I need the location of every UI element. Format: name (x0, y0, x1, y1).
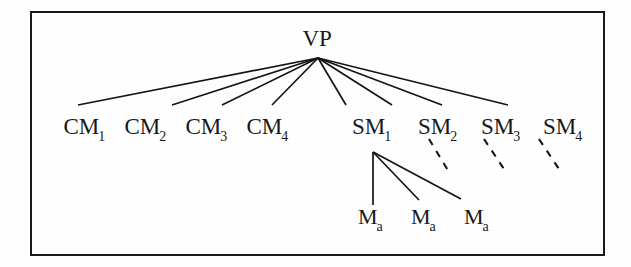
node-label-m-a-2: Ma (411, 206, 437, 231)
node-subscript-text: a (483, 219, 489, 234)
node-label-cm-3: CM3 (186, 115, 229, 141)
node-subscript-text: a (430, 219, 436, 234)
node-base-text: VP (303, 26, 332, 51)
node-label-sm-4: SM4 (543, 115, 583, 141)
node-subscript-text: 2 (450, 129, 457, 144)
node-label-sm-2: SM2 (418, 115, 458, 141)
node-subscript-text: 3 (513, 129, 520, 144)
node-subscript-text: 1 (98, 129, 105, 144)
sm1-edge-group (373, 152, 461, 205)
node-label-cm-2: CM2 (125, 115, 168, 141)
node-base-text: SM (481, 114, 514, 139)
node-base-text: SM (418, 114, 451, 139)
node-subscript-text: 3 (220, 129, 227, 144)
node-label-vp: VP (303, 27, 332, 50)
node-label-sm-1: SM1 (352, 115, 392, 141)
node-base-text: CM (64, 114, 100, 139)
node-subscript-text: a (377, 219, 383, 234)
node-label-cm-4: CM4 (247, 115, 290, 141)
node-label-sm-3: SM3 (481, 115, 521, 141)
edge-sm1-ma-3 (373, 152, 461, 199)
node-subscript-text: 1 (384, 129, 391, 144)
edge-vp-cm-3 (222, 58, 318, 105)
node-base-text: CM (125, 114, 161, 139)
figure-container: VPCM1CM2CM3CM4SM1SM2SM3SM4MaMaMa (0, 0, 631, 267)
edge-vp-cm-1 (78, 58, 318, 105)
node-base-text: CM (247, 114, 283, 139)
dashed-edge-sm-2 (429, 139, 449, 172)
node-base-text: CM (186, 114, 222, 139)
node-subscript-text: 4 (575, 129, 582, 144)
node-label-m-a-1: Ma (358, 206, 384, 231)
edge-vp-sm-1 (318, 58, 346, 105)
node-label-cm-1: CM1 (64, 115, 107, 141)
dashed-edge-sm-3 (484, 139, 506, 172)
node-base-text: M (358, 204, 378, 229)
node-subscript-text: 2 (159, 129, 166, 144)
vp-edge-group (78, 58, 508, 105)
node-label-m-a-3: Ma (464, 206, 490, 231)
edge-sm1-ma-2 (373, 152, 419, 200)
dashed-edge-sm-4 (539, 139, 561, 172)
node-base-text: M (464, 204, 484, 229)
dashed-edge-group (429, 139, 561, 172)
node-base-text: SM (543, 114, 576, 139)
node-subscript-text: 4 (281, 129, 288, 144)
node-base-text: SM (352, 114, 385, 139)
edge-vp-sm-4 (318, 58, 508, 105)
node-base-text: M (411, 204, 431, 229)
